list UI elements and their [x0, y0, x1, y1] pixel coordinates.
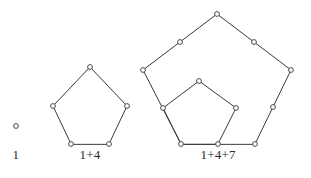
- caption-group-2: 1+4: [80, 148, 101, 161]
- vertex-apex: [88, 65, 93, 70]
- pentagon-ring-2-outer: [143, 14, 291, 144]
- vertex-bottom-right: [107, 142, 112, 147]
- vertex-right: [125, 104, 130, 109]
- caption-group-3: 1+4+7: [201, 148, 236, 161]
- vertex-outer-upper-right-mid: [252, 40, 257, 45]
- vertex-bottom-left: [69, 142, 74, 147]
- vertex-inner-bottom-right: [216, 142, 221, 147]
- vertex-outer-apex: [215, 12, 220, 17]
- pentagonal-numbers-figure: 11+41+4+7: [0, 0, 311, 178]
- vertex-inner-apex: [197, 79, 202, 84]
- nodes-layer: [14, 12, 294, 147]
- vertex-outer-left: [141, 68, 146, 73]
- pentagon-diagram-canvas: [0, 0, 311, 178]
- pentagon-ring-1-inner: [163, 81, 236, 144]
- vertex-outer-right: [289, 68, 294, 73]
- vertex-outer-lower-right-mid: [271, 105, 276, 110]
- vertex-left: [51, 104, 56, 109]
- origin-dot: [14, 124, 19, 129]
- edges-layer: [53, 14, 291, 144]
- caption-group-1: 1: [13, 148, 20, 161]
- vertex-inner-left: [161, 106, 166, 111]
- vertex-shared-bottom-left: [179, 142, 184, 147]
- vertex-inner-right: [234, 106, 239, 111]
- vertex-outer-bottom-right: [253, 142, 258, 147]
- vertex-outer-upper-left-mid: [178, 40, 183, 45]
- pentagon-ring-1: [53, 67, 127, 144]
